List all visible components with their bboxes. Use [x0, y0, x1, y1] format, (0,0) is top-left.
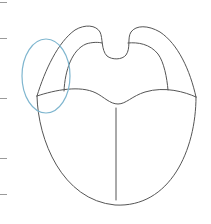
highlight-ellipse: [22, 39, 70, 113]
tongue-outer-contour: [37, 26, 196, 97]
tick-mark: [0, 98, 7, 99]
diagram-canvas: Tongue outline with highlighted lateral …: [0, 0, 211, 224]
tick-mark: [0, 38, 7, 39]
tongue-inner-back-contour-right: [128, 43, 168, 90]
tongue-middle-crease: [37, 89, 196, 104]
tick-mark: [0, 194, 7, 195]
tick-mark: [0, 158, 7, 159]
tick-mark: [0, 2, 7, 3]
tongue-outline-drawing: [0, 0, 211, 224]
